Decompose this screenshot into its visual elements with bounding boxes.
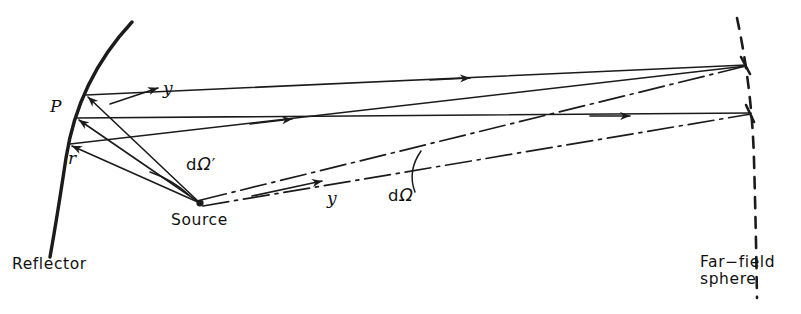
d-omega-label: dΩ xyxy=(388,186,413,206)
d-omega-prime-mark: ′ xyxy=(211,155,216,174)
far-field-sphere-label: Far−fieldsphere xyxy=(700,254,775,289)
incident-ray-2 xyxy=(79,120,200,203)
point-p-label: P xyxy=(50,97,61,116)
reflector-curve xyxy=(50,22,132,257)
d-omega-prime-omega: Ω xyxy=(196,154,210,174)
ray-diagram-svg xyxy=(0,0,801,314)
source-label: Source xyxy=(171,212,228,229)
incident-ray-group xyxy=(72,97,200,203)
d-omega-prime-d: d xyxy=(186,155,196,174)
far-field-line-2: sphere xyxy=(700,270,756,288)
d-omega-prime-label: dΩ′ xyxy=(186,155,216,175)
d-omega-d: d xyxy=(388,186,398,205)
source-point xyxy=(196,199,203,206)
far-field-line-1: Far−field xyxy=(700,253,775,271)
y-axis-label-upper: y xyxy=(163,79,173,98)
reflector-label: Reflector xyxy=(12,256,87,273)
incident-ray-1 xyxy=(88,97,200,203)
radius-r-label: r xyxy=(68,149,76,168)
y-axis-label-lower: y xyxy=(327,189,337,208)
reflected-ray-3-arrow xyxy=(250,119,292,124)
figure-root: P r y y dΩ′ dΩ Source Reflector Far−fiel… xyxy=(0,0,801,314)
chain-ray-group xyxy=(201,66,751,206)
y-axis-arrow-lower xyxy=(252,181,322,196)
incident-ray-3 xyxy=(72,146,200,203)
reflected-ray-group xyxy=(70,65,751,144)
chain-ray-lower xyxy=(203,114,751,206)
reflected-ray-2 xyxy=(77,113,751,118)
d-omega-omega: Ω xyxy=(398,185,412,205)
y-axis-arrow-upper xyxy=(110,88,158,104)
